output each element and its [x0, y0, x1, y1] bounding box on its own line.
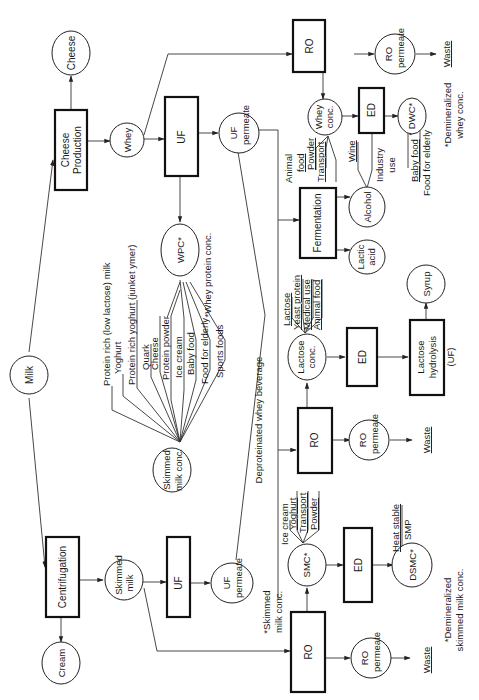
centrifugation-label: Centrifugation	[57, 546, 68, 608]
skimmed-milk-conc-label-1: Skimmed	[161, 450, 172, 490]
smc-label: SMC*	[301, 552, 312, 577]
skimmed-milk-conc-node	[153, 448, 191, 492]
ro-permeate-top-label-2: permeate	[395, 28, 406, 68]
dwc-product-food-for-elderly: Food for elderly	[421, 130, 432, 196]
waste-mid-label: Waste	[421, 427, 432, 454]
ed-bottom-label: ED	[353, 558, 364, 572]
alcohol-product-use: use	[386, 157, 397, 172]
milk-label: Milk	[24, 365, 35, 384]
cheese-label: Cheese	[66, 35, 77, 70]
product-food-for-elderly: Food for elderly	[199, 318, 210, 384]
uf-permeate-bottom-node	[211, 563, 253, 603]
dwc-product-baby-food: Baby food	[409, 139, 420, 182]
smc-product-transport: Transport	[297, 492, 308, 533]
dsmc-note-2: skimmed milk conc.	[454, 569, 465, 652]
deproteinated-label: Deproteinated whey beverage	[253, 357, 264, 484]
ro-permeate-bottom-label-1: RO	[359, 651, 370, 665]
product-protein-rich-yoghurt: Protein rich yoghurt (junket ymer)	[126, 245, 137, 385]
product-protein-rich-milk: Protein rich (low lactose) milk	[101, 262, 112, 386]
lactose-hydrolysis-label-3: (UF)	[445, 348, 456, 367]
uf-permeate-bottom-label-1: UF	[221, 576, 232, 589]
ro-permeate-mid-label-2: permeate	[369, 414, 380, 454]
wpc-note: *Whey protein conc.	[202, 232, 213, 317]
smc-product-powder: Powder	[308, 498, 319, 530]
skimmed-milk-label-2: milk	[124, 574, 135, 591]
alcohol-label: Alcohol	[362, 191, 373, 222]
uf-bottom-label: UF	[173, 576, 184, 589]
fermentation-label: Fermentation	[312, 194, 323, 253]
product-cheese: Cheese	[149, 337, 160, 370]
dsmc-note-1: *Demineralized	[442, 578, 453, 642]
whey-product-transport: Transport	[315, 141, 326, 182]
uf-permeate-top-label-1: UF	[228, 126, 239, 139]
product-labels: Protein rich (low lactose) milk Yoghurt …	[101, 130, 432, 552]
ro-permeate-mid-label-1: RO	[357, 433, 368, 447]
milk-processing-flow-diagram: Milk Cheese Production Cheese Whey UF UF…	[0, 0, 479, 700]
dwc-note-2: whey conc.	[454, 91, 465, 140]
cream-label: Cream	[56, 649, 67, 678]
product-ice-cream: Ice cream	[173, 336, 184, 378]
dwc-note-1: *Demineralized	[442, 83, 453, 147]
wpc-label: WPC*	[175, 237, 186, 263]
product-yoghurt: Yoghurt	[112, 341, 123, 374]
lactic-acid-label-2: acid	[366, 248, 377, 265]
product-baby-food: Baby food	[185, 332, 196, 375]
ro-permeate-top-label-1: RO	[383, 47, 394, 61]
uf-permeate-bottom-label-2: permeate	[233, 558, 244, 598]
lactose-conc-label-2: conc.	[306, 346, 317, 369]
dsmc-product-smp: SMP	[402, 519, 413, 540]
uf-permeate-top-label-2: permeate	[240, 105, 251, 145]
whey-label: Whey	[122, 128, 133, 153]
smc-note-2: milk conc.	[273, 591, 284, 633]
whey-product-animal: Animal	[283, 154, 294, 183]
smc-note-1: *Skimmed	[261, 590, 272, 633]
alcohol-product-industry: Industry	[374, 148, 385, 182]
syrup-label: Syrup	[421, 272, 432, 297]
ed-mid-label: ED	[357, 350, 368, 364]
waste-bottom-label: Waste	[421, 647, 432, 674]
whey-conc-label-1: Whey	[313, 105, 324, 130]
alcohol-product-wine: Wine	[346, 140, 357, 162]
lactose-hydrolysis-label-2: hydrolysis	[427, 336, 438, 378]
product-protein-powder: Protein powder	[160, 316, 171, 380]
uf-top-label: UF	[176, 130, 187, 143]
product-sports-foods: Sports foods	[214, 324, 225, 378]
ro-top-label: RO	[304, 38, 315, 53]
lactose-product-animal-food: Animal food	[311, 280, 322, 330]
uf-permeate-top-node	[219, 113, 259, 153]
lactic-acid-label-1: Lactic	[355, 244, 366, 269]
cheese-production-label-1: Cheese	[60, 132, 71, 167]
skimmed-milk-label-1: Skimmed	[113, 555, 124, 595]
ro-mid-label: RO	[309, 432, 320, 447]
lactose-conc-label-1: Lactose	[295, 340, 306, 373]
dwc-label: DWC*	[406, 103, 417, 130]
dsmc-label: DSMC*	[407, 549, 418, 581]
waste-top-label: Waste	[441, 41, 452, 68]
dsmc-product-heat-stable: Heat stable	[390, 504, 401, 552]
lactose-hydrolysis-label-1: Lactose	[415, 340, 426, 373]
whey-conc-label-2: conc.	[324, 106, 335, 129]
ro-bottom-label: RO	[303, 644, 314, 659]
ed-top-label: ED	[366, 103, 377, 117]
ro-permeate-bottom-label-2: permeate	[371, 632, 382, 672]
cheese-production-label-2: Production	[72, 126, 83, 174]
skimmed-milk-conc-label-2: milk conc.	[173, 449, 184, 491]
